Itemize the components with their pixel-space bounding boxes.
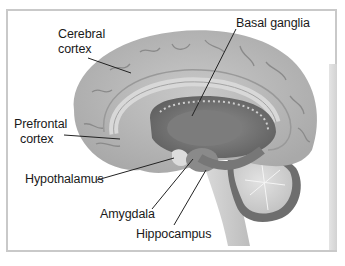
label-prefrontal-cortex-line2: cortex	[20, 132, 53, 146]
label-cerebral-cortex-line1: Cerebral	[58, 27, 105, 41]
label-prefrontal-cortex-line1: Prefrontal	[14, 117, 67, 131]
label-amygdala: Amygdala	[100, 207, 155, 221]
label-hypothalamus: Hypothalamus	[25, 172, 104, 186]
label-basal-ganglia: Basal ganglia	[236, 16, 310, 30]
leader-hippocampus	[174, 170, 206, 225]
label-hippocampus: Hippocampus	[136, 227, 211, 241]
label-cerebral-cortex-line2: cortex	[58, 42, 91, 56]
